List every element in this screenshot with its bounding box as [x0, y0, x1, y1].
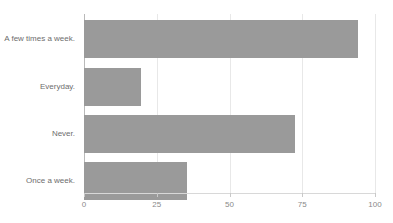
bar-everyday[interactable] — [84, 68, 141, 106]
bar-chart: A few times a week. Everyday. Never. Onc… — [0, 0, 393, 223]
category-label-everyday: Everyday. — [40, 82, 75, 92]
bar-once-a-week[interactable] — [84, 162, 187, 200]
tick-mark-0 — [84, 193, 85, 197]
category-label-once-a-week: Once a week. — [26, 176, 75, 186]
category-label-a-few-times-a-week: A few times a week. — [4, 34, 75, 44]
clipped-title-remnant — [84, 0, 204, 1]
x-tick-label-25: 25 — [152, 200, 161, 210]
x-tick-label-50: 50 — [225, 200, 234, 210]
tick-mark-50 — [230, 193, 231, 197]
tick-mark-75 — [302, 193, 303, 197]
x-tick-label-0: 0 — [82, 200, 86, 210]
tick-mark-100 — [375, 193, 376, 197]
plot-area — [84, 14, 375, 193]
tick-mark-25 — [157, 193, 158, 197]
category-label-never: Never. — [52, 129, 75, 139]
x-tick-label-100: 100 — [368, 200, 381, 210]
bar-never[interactable] — [84, 115, 295, 153]
gridline-100 — [375, 14, 376, 193]
bar-a-few-times-a-week[interactable] — [84, 20, 358, 58]
x-tick-label-75: 75 — [298, 200, 307, 210]
